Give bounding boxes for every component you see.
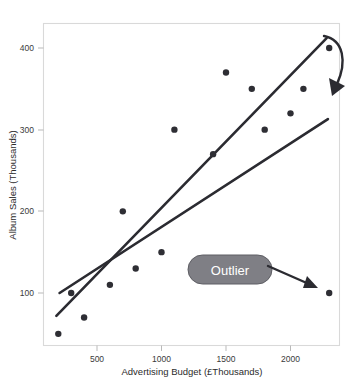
- outlier-pointer-arrow: [268, 266, 318, 288]
- y-tick-label-400: 400: [20, 43, 34, 53]
- y-tick-label-200: 200: [20, 206, 34, 216]
- x-axis-title: Advertising Budget (£Thousands): [122, 366, 263, 377]
- x-tick-label-500: 500: [90, 354, 104, 364]
- data-points: [55, 45, 332, 337]
- outlier-arrowhead: [303, 276, 318, 288]
- x-axis-ticks: [97, 346, 291, 352]
- data-point: [55, 331, 61, 337]
- x-tick-label-2000: 2000: [281, 354, 300, 364]
- data-point: [262, 126, 268, 132]
- data-point: [287, 110, 293, 116]
- data-point: [120, 208, 126, 214]
- data-point: [326, 45, 332, 51]
- data-point: [223, 69, 229, 75]
- y-tick-label-100: 100: [20, 288, 34, 298]
- data-point: [133, 265, 139, 271]
- outlier-annotation[interactable]: Outlier: [188, 255, 272, 284]
- data-point: [326, 290, 332, 296]
- y-axis-title: Album Sales (Thousands): [7, 130, 18, 239]
- data-point: [300, 86, 306, 92]
- data-point: [81, 314, 87, 320]
- curve-arrowhead: [329, 78, 345, 96]
- x-tick-label-1500: 1500: [217, 354, 236, 364]
- line-callout-arrow: [324, 36, 345, 96]
- data-point: [171, 126, 177, 132]
- plot-canvas: 400 300 200 100 Album Sales (Thousands) …: [0, 0, 361, 391]
- data-point: [158, 249, 164, 255]
- scatter-plot-figure: 400 300 200 100 Album Sales (Thousands) …: [0, 0, 361, 391]
- data-point: [107, 282, 113, 288]
- data-point: [68, 290, 74, 296]
- outlier-label: Outlier: [211, 263, 250, 278]
- y-tick-label-300: 300: [20, 125, 34, 135]
- data-point: [210, 151, 216, 157]
- data-point: [249, 86, 255, 92]
- y-axis-ticks: [38, 48, 44, 293]
- x-tick-label-1000: 1000: [152, 354, 171, 364]
